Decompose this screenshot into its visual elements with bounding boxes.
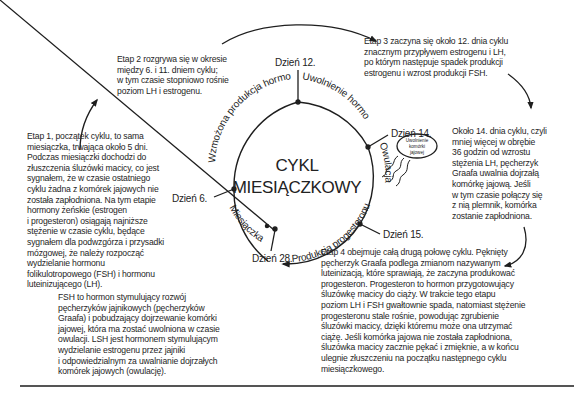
text-line: sygnałem, że w czasie ostatniego — [27, 173, 197, 184]
text-line: progesteron. Progesteron to hormon przyg… — [321, 279, 551, 290]
stage-4-text: Etap 4 obejmuje całą drugą połowę cyklu.… — [321, 247, 551, 374]
text-line: złuszczenia śluzówki macicy, co jest — [27, 163, 197, 174]
stage-2-text: Etap 2 rozgrywa się w okresiemiędzy 6. i… — [117, 54, 237, 96]
text-line: pęcherzyków jajnikowych (pęcherzyków — [58, 303, 248, 314]
text-line: między 6. i 11. dniem cyklu; — [117, 65, 237, 76]
day-15-label: Dzień 15. — [383, 229, 423, 240]
day-12-label: Dzień 12. — [275, 57, 315, 68]
text-line: poziom LH i estrogenu. — [117, 86, 237, 97]
day-28-label: Dzień 28. — [252, 253, 292, 264]
text-line: Graafa uwalnia dojrzałą — [452, 168, 564, 179]
text-line: w tym czasie stopniowo rośnie — [117, 75, 237, 86]
text-line: po którym następuje spadek produkcji — [364, 57, 534, 68]
arrow-stage2-to-stage3 — [222, 25, 376, 44]
text-line: estrogenu i wzrost produkcji FSH. — [364, 68, 534, 79]
text-line: Etap 3 zaczyna się około 12. dnia cyklu — [364, 36, 534, 47]
text-line: wydzielanie estrogenu przez jajniki — [58, 345, 248, 356]
text-line: ciążę. Jeśli komórka jajowa nie została … — [321, 332, 551, 343]
arrow-stage3-to-day14 — [508, 74, 531, 108]
text-line: i odpowiedzialnym za uwalnianie dojrzały… — [58, 356, 248, 367]
text-line: miesiączkowego. — [321, 364, 551, 375]
text-line: folikulotropowego (FSH) i hormonu — [27, 269, 197, 280]
fsh-lh-note-text: FSH to hormon stymulujący rozwójpęcherzy… — [58, 292, 248, 377]
text-line: luteinizacją, które sprawiają, że zaczyn… — [321, 268, 551, 279]
svg-text:komórki: komórki — [409, 144, 425, 149]
text-line: wydzielanie hormonu — [27, 258, 197, 269]
text-line: jajowej, która ma zostać uwolniona w cza… — [58, 324, 248, 335]
day-14-label: Dzień 14. — [391, 128, 431, 139]
text-line: i progesteron) osiągają najniższe — [27, 216, 197, 227]
text-line: miesiączka, trwająca około 5 dni. — [27, 142, 197, 153]
text-line: została zapłodniona. Na tym etapie — [27, 195, 197, 206]
text-line: Graafa) i pobudzający dojrzewanie komórk… — [58, 313, 248, 324]
stage-3-text: Etap 3 zaczyna się około 12. dnia cykluz… — [364, 36, 534, 78]
day-14-ovulation-text: Około 14. dnia cyklu, czylimniej więcej … — [452, 126, 564, 221]
text-line: Etap 2 rozgrywa się w okresie — [117, 54, 237, 65]
text-line: stężenia LH, pęcherzyk — [452, 158, 564, 169]
text-line: luteinizującego (LH). — [27, 279, 197, 290]
text-line: progesteronu stale rośnie, powodując zgr… — [321, 311, 551, 322]
text-line: 36 godzin od wzrostu — [452, 147, 564, 158]
text-line: znacznym przypływem estrogenu i LH, — [364, 47, 534, 58]
text-line: pęcherzyk Graafa podlega zmianom nazywan… — [321, 258, 551, 269]
text-line: mózgowej, że należy rozpocząć — [27, 248, 197, 259]
text-line: Etap 1, początek cyklu, to sama — [27, 131, 197, 142]
cycle-title: CYKL MIESIĄCZKOWY — [222, 155, 372, 199]
text-line: FSH to hormon stymulujący rozwój — [58, 292, 248, 303]
text-line: Około 14. dnia cyklu, czyli — [452, 126, 564, 137]
stage-1-text: Etap 1, początek cyklu, to samamiesiączk… — [27, 131, 197, 290]
text-line: cyklu żadna z komórek jajowych nie — [27, 184, 197, 195]
text-line: śluzówkę macicy do ciąży. W trakcie tego… — [321, 289, 551, 300]
text-line: poziom LH i FSH gwałtownie spada, natomi… — [321, 300, 551, 311]
arc-label-ovulation: Owulacja — [378, 141, 395, 184]
svg-text:Owulacja: Owulacja — [378, 141, 395, 184]
text-line: stężenie w czasie cyklu, będące — [27, 226, 197, 237]
bottom-divider — [20, 385, 574, 387]
text-line: Etap 4 obejmuje całą drugą połowę cyklu.… — [321, 247, 551, 258]
text-line: ulegnie złuszczeniu na początku następne… — [321, 353, 551, 364]
svg-text:jajowej: jajowej — [409, 150, 424, 155]
text-line: mniej więcej w obrębie — [452, 137, 564, 148]
text-line: owulacji. LSH jest hormonem stymulującym — [58, 334, 248, 345]
text-line: śluzówka macicy zacznie pękać i zmięknie… — [321, 342, 551, 353]
text-line: zostanie zapłodniona. — [452, 211, 564, 222]
text-line: sygnałem dla podwzgórza i przysadki — [27, 237, 197, 248]
text-line: Podczas miesiączki dochodzi do — [27, 152, 197, 163]
text-line: hormony żeńskie (estrogen — [27, 205, 197, 216]
text-line: komórkę jajową. Jeśli — [452, 179, 564, 190]
text-line: komórek jajowych (owulację). — [58, 366, 248, 377]
text-line: z nią plemnik, komórka — [452, 200, 564, 211]
text-line: śluzówki macicy, dzięki któremu może ona… — [321, 321, 551, 332]
text-line: w tym czasie połączy się — [452, 190, 564, 201]
